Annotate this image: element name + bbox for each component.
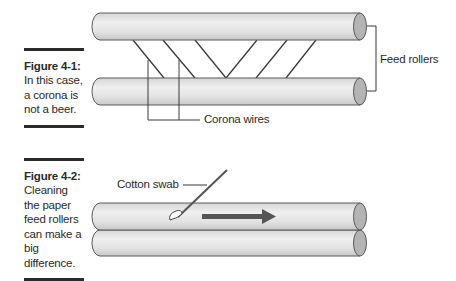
cotton-swab-label: Cotton swab: [117, 178, 179, 190]
lower-paper-feed-roller: [92, 230, 367, 256]
bottom-feed-roller: [92, 78, 367, 105]
corona-wires-label: Corona wires: [204, 113, 269, 125]
feed-rollers-bracket: [367, 26, 376, 91]
corona-wires: [133, 40, 316, 78]
feed-rollers-label: Feed rollers: [380, 53, 438, 65]
figure-4-1-diagram: [92, 13, 376, 120]
top-feed-roller: [92, 13, 367, 40]
